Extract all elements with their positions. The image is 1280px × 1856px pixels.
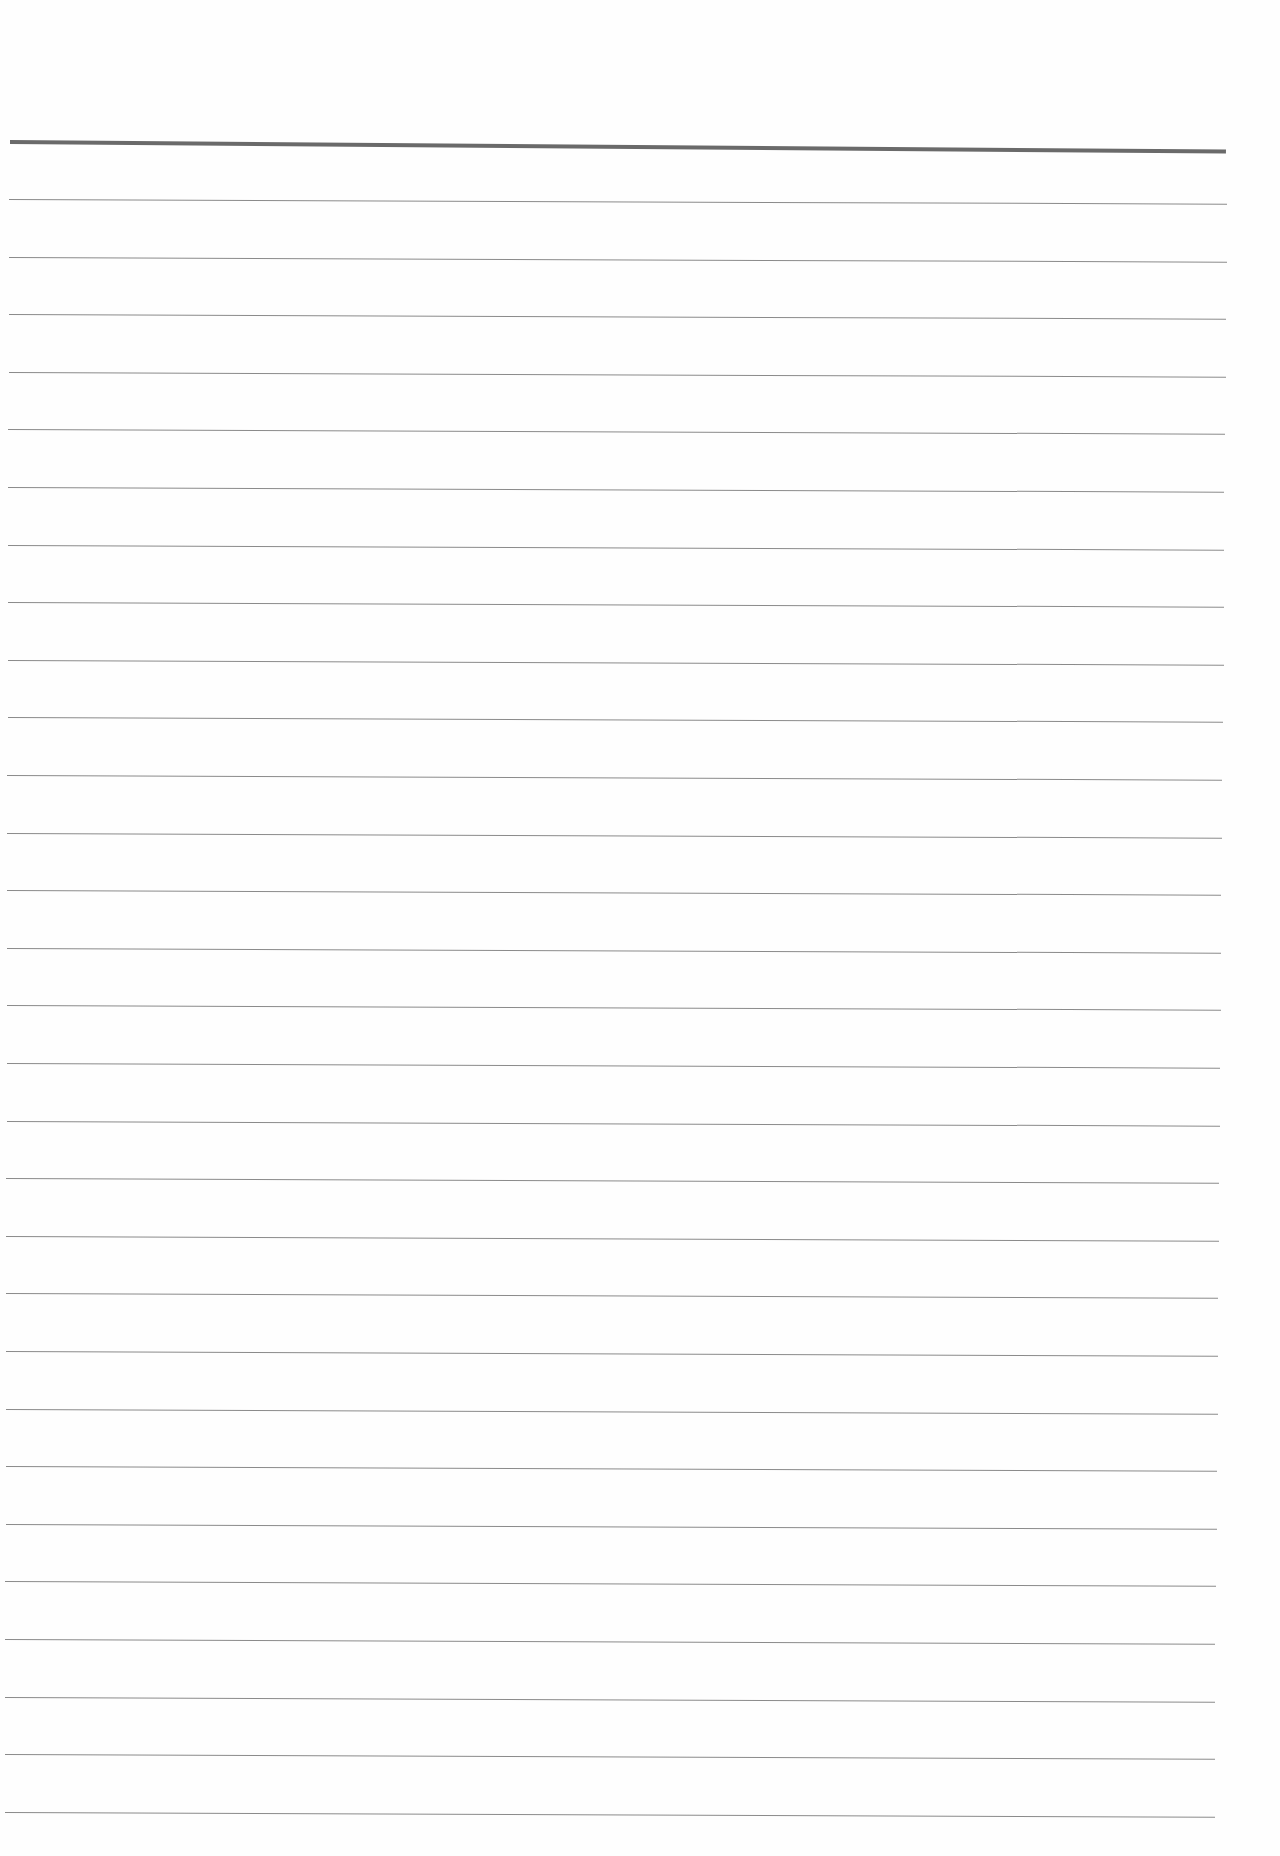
ruled-line	[5, 1639, 1215, 1645]
ruled-line	[7, 948, 1221, 954]
header-rule	[10, 140, 1226, 154]
lined-paper-page	[0, 0, 1280, 1856]
ruled-line	[7, 890, 1221, 896]
ruled-line	[7, 1005, 1221, 1011]
ruled-line	[6, 1178, 1219, 1184]
ruled-line	[8, 429, 1225, 435]
ruled-line	[7, 1121, 1220, 1127]
ruled-line	[5, 1754, 1215, 1760]
ruled-line	[9, 372, 1226, 378]
ruled-line	[8, 545, 1224, 551]
ruled-line	[8, 660, 1224, 666]
ruled-line	[5, 1697, 1215, 1703]
ruled-line	[7, 1063, 1220, 1069]
ruled-line	[5, 1581, 1216, 1587]
ruled-line	[8, 717, 1223, 723]
ruled-line	[6, 1293, 1218, 1299]
ruled-line	[9, 257, 1227, 263]
ruled-line	[8, 602, 1224, 608]
ruled-line	[6, 1466, 1217, 1472]
ruled-line	[7, 775, 1222, 781]
ruled-line	[6, 1409, 1218, 1415]
ruled-line	[6, 1236, 1219, 1242]
ruled-line	[6, 1524, 1217, 1530]
ruled-line	[6, 1351, 1218, 1357]
ruled-line	[8, 487, 1224, 493]
ruled-line	[5, 1812, 1215, 1818]
ruled-line	[9, 314, 1226, 320]
ruled-line	[9, 199, 1227, 205]
ruled-line	[7, 833, 1222, 839]
